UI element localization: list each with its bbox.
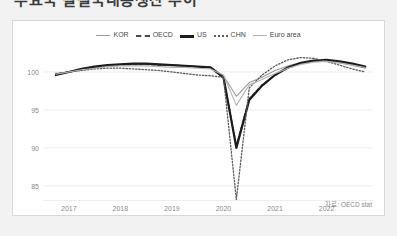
y-axis-tick-label: 100 (19, 68, 39, 75)
legend-swatch-icon (253, 32, 267, 38)
series-line-oecd (56, 61, 365, 146)
chart-legend: KOROECDUSCHNEuro area (13, 31, 384, 38)
x-axis-tick-label: 2019 (164, 205, 180, 212)
chart-panel: KOROECDUSCHNEuro area 859095100201720182… (12, 20, 385, 216)
legend-item-kor[interactable]: KOR (96, 31, 128, 38)
y-axis-tick-label: 90 (19, 144, 39, 151)
y-axis-tick-label: 95 (19, 106, 39, 113)
legend-label: KOR (113, 31, 128, 38)
x-axis-tick-label: 2021 (267, 205, 283, 212)
page-title: 주요국 실질국내총생산 추이 (14, 0, 197, 9)
x-axis-tick-label: 2020 (216, 205, 232, 212)
legend-label: US (197, 31, 207, 38)
legend-item-euro-area[interactable]: Euro area (253, 31, 301, 38)
legend-item-oecd[interactable]: OECD (136, 31, 173, 38)
x-axis-tick-label: 2017 (61, 205, 77, 212)
plot-area: 859095100201720182019202020212022 (43, 53, 373, 201)
legend-label: CHN (231, 31, 246, 38)
series-line-chn (56, 58, 365, 200)
legend-item-us[interactable]: US (180, 31, 207, 38)
legend-item-chn[interactable]: CHN (214, 31, 246, 38)
legend-swatch-icon (96, 32, 110, 38)
y-axis-tick-label: 85 (19, 182, 39, 189)
series-line-us (56, 60, 365, 148)
legend-swatch-icon (136, 32, 150, 38)
legend-swatch-icon (180, 32, 194, 38)
legend-swatch-icon (214, 32, 228, 38)
chart-svg (43, 53, 373, 201)
x-axis-tick-label: 2018 (113, 205, 129, 212)
legend-label: Euro area (270, 31, 301, 38)
legend-label: OECD (153, 31, 173, 38)
source-note: 자료: OECD stat (325, 199, 372, 209)
